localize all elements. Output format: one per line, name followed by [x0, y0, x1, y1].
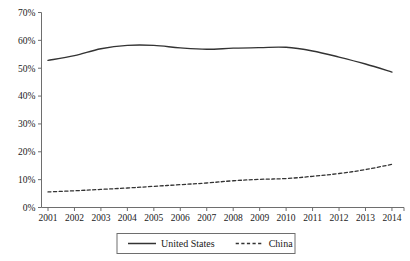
y-tick-label: 50% — [18, 64, 36, 74]
x-tick-label: 2008 — [224, 213, 243, 223]
x-tick-label: 2009 — [250, 213, 269, 223]
series-line-united-states — [48, 45, 392, 72]
legend-label-united-states: United States — [161, 238, 215, 249]
y-tick-label: 10% — [18, 175, 36, 185]
x-tick-label: 2007 — [197, 213, 216, 223]
chart-canvas: 0%10%20%30%40%50%60%70% 2001200220032004… — [0, 0, 410, 261]
x-tick-label: 2001 — [39, 213, 58, 223]
x-tick-label: 2004 — [118, 213, 137, 223]
y-tick-label: 60% — [18, 36, 36, 46]
y-tick-label: 30% — [18, 119, 36, 129]
series-line-china — [48, 164, 392, 192]
line-chart-figure: 0%10%20%30%40%50%60%70% 2001200220032004… — [0, 0, 410, 261]
x-tick-label: 2005 — [144, 213, 163, 223]
x-tick-label: 2011 — [303, 213, 322, 223]
x-tick-label: 2014 — [382, 213, 401, 223]
legend-label-china: China — [269, 238, 293, 249]
chart-legend: United StatesChina — [117, 234, 295, 254]
data-series-group — [48, 45, 392, 192]
y-tick-label: 70% — [18, 8, 36, 18]
y-tick-label: 20% — [18, 147, 36, 157]
x-tick-label: 2012 — [330, 213, 349, 223]
y-tick-label: 0% — [23, 203, 36, 213]
x-tick-label: 2003 — [91, 213, 110, 223]
x-tick-label: 2010 — [277, 213, 296, 223]
y-tick-label: 40% — [18, 91, 36, 101]
y-axis: 0%10%20%30%40%50%60%70% — [18, 8, 41, 213]
x-axis: 2001200220032004200520062007200820092010… — [39, 208, 405, 224]
x-tick-label: 2013 — [356, 213, 375, 223]
x-tick-label: 2002 — [65, 213, 84, 223]
x-tick-label: 2006 — [171, 213, 190, 223]
